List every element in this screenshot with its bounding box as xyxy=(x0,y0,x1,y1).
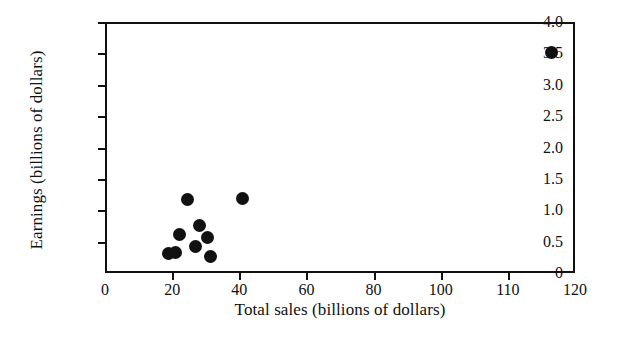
x-tick-mark xyxy=(239,273,241,280)
x-tick-label: 100 xyxy=(411,282,471,298)
y-tick-mark xyxy=(98,148,105,150)
plot-area: 00.51.01.52.02.53.03.54.0 02040608010011… xyxy=(105,22,575,273)
x-tick-mark xyxy=(374,273,376,280)
y-tick-label: 2.5 xyxy=(503,108,563,124)
y-tick-mark xyxy=(98,116,105,118)
x-axis-ticks: 020406080100110120 xyxy=(105,273,575,303)
y-tick-mark xyxy=(98,85,105,87)
x-tick-label: 40 xyxy=(209,282,269,298)
x-tick-mark xyxy=(441,273,443,280)
scatter-plot-figure: Earnings (billions of dollars) 00.51.01.… xyxy=(0,0,623,341)
x-tick-label: 20 xyxy=(142,282,202,298)
x-tick-label: 60 xyxy=(276,282,336,298)
x-tick-mark xyxy=(508,273,510,280)
y-tick-mark xyxy=(98,53,105,55)
y-tick-mark xyxy=(98,22,105,24)
x-axis-title: Total sales (billions of dollars) xyxy=(105,300,575,320)
data-point xyxy=(545,46,558,59)
y-tick-label: 0.5 xyxy=(503,234,563,250)
y-tick-mark xyxy=(98,179,105,181)
y-tick-label: 2.0 xyxy=(503,140,563,156)
x-tick-mark xyxy=(306,273,308,280)
y-tick-mark xyxy=(98,242,105,244)
y-tick-label: 4.0 xyxy=(503,14,563,30)
y-tick-mark xyxy=(98,210,105,212)
data-point xyxy=(204,250,217,263)
x-tick-label: 80 xyxy=(344,282,404,298)
y-tick-label: 3.0 xyxy=(503,77,563,93)
y-tick-label: 1.0 xyxy=(503,202,563,218)
y-axis-title: Earnings (billions of dollars) xyxy=(15,0,59,300)
data-point xyxy=(193,219,206,232)
x-tick-label: 120 xyxy=(545,282,605,298)
data-point xyxy=(181,193,194,206)
data-point xyxy=(236,192,249,205)
y-tick-label: 1.5 xyxy=(503,171,563,187)
x-tick-label: 110 xyxy=(478,282,538,298)
x-tick-mark xyxy=(172,273,174,280)
x-tick-label: 0 xyxy=(75,282,135,298)
